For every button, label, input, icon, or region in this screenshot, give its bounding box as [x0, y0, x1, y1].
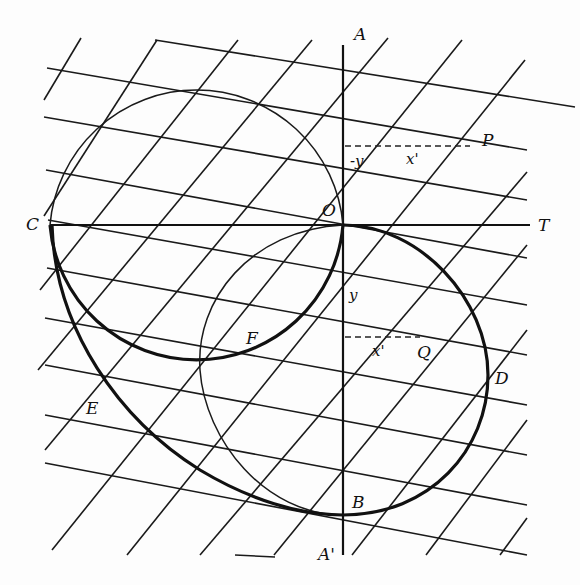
- label-A-prime: A': [316, 544, 335, 564]
- label-D: D: [494, 368, 509, 388]
- label-Q: Q: [417, 342, 431, 362]
- grid-horizontal-lines: [44, 40, 575, 557]
- label-T: T: [538, 215, 551, 235]
- label-neg-y: -y: [350, 152, 364, 170]
- lower-circle-thick-arc: [343, 225, 488, 515]
- label-x-prime-lower: x': [372, 342, 385, 360]
- label-B: B: [351, 492, 365, 512]
- label-A: A: [352, 24, 366, 44]
- diagram: A A' B C D E F O P Q T -y y x' x': [0, 0, 580, 585]
- label-x-prime-upper: x': [406, 150, 419, 168]
- grid-slanted-lines: [38, 38, 527, 555]
- label-P: P: [481, 130, 494, 150]
- label-O: O: [322, 200, 336, 220]
- label-E: E: [85, 398, 99, 418]
- label-y: y: [348, 286, 358, 304]
- upper-circle-thick-arc: [50, 225, 343, 360]
- label-C: C: [26, 214, 39, 234]
- label-F: F: [245, 328, 259, 348]
